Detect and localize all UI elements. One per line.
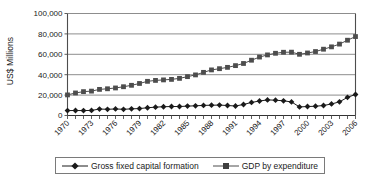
- data-point-marker: [145, 79, 150, 84]
- legend-item-gross-fixed-capital-formation: Gross fixed capital formation: [62, 161, 199, 171]
- data-point-marker: [281, 50, 286, 55]
- series-line-1: [68, 37, 356, 95]
- data-point-marker: [233, 103, 239, 109]
- x-tick-label: 1979: [124, 118, 143, 137]
- data-point-marker: [161, 78, 166, 83]
- data-point-marker: [137, 81, 142, 86]
- data-point-marker: [241, 102, 247, 108]
- data-point-marker: [273, 51, 278, 56]
- x-tick-label: 1976: [100, 118, 119, 137]
- x-tick-label: 1991: [220, 118, 239, 137]
- data-point-marker: [105, 86, 110, 91]
- data-point-marker: [89, 89, 94, 94]
- x-tick-label: 2003: [316, 118, 335, 137]
- data-point-marker: [313, 103, 319, 109]
- data-point-marker: [321, 103, 327, 109]
- data-point-marker: [169, 77, 174, 82]
- data-point-marker: [257, 55, 262, 60]
- data-point-marker: [329, 44, 334, 49]
- data-point-marker: [169, 104, 175, 110]
- data-point-marker: [185, 103, 191, 109]
- x-tick-label: 1997: [268, 118, 287, 137]
- x-tick-label: 1973: [76, 118, 95, 137]
- x-tick-label: 1970: [52, 118, 71, 137]
- data-point-marker: [185, 74, 190, 79]
- data-point-marker: [313, 49, 318, 54]
- data-point-marker: [137, 106, 143, 112]
- data-point-marker: [233, 63, 238, 68]
- plot-area: 020,00040,00060,00080,000100,00019701973…: [0, 0, 373, 181]
- data-point-marker: [81, 108, 87, 114]
- data-point-marker: [217, 66, 222, 71]
- data-point-marker: [329, 101, 335, 107]
- data-point-marker: [81, 89, 86, 94]
- data-point-marker: [217, 102, 223, 108]
- data-point-marker: [161, 104, 167, 110]
- data-point-marker: [201, 103, 207, 109]
- data-point-marker: [337, 99, 343, 105]
- legend-label-0: Gross fixed capital formation: [91, 161, 199, 171]
- data-point-marker: [281, 98, 287, 104]
- data-point-marker: [289, 50, 294, 55]
- x-tick-label: 1982: [148, 118, 167, 137]
- legend-label-1: GDP by expenditure: [242, 161, 318, 171]
- y-tick-label: 20,000: [38, 91, 63, 100]
- data-point-marker: [257, 98, 263, 104]
- x-tick-label: 1985: [172, 118, 191, 137]
- y-tick-label: 80,000: [38, 30, 63, 39]
- data-point-marker: [105, 106, 111, 112]
- y-tick-label: 100,000: [34, 9, 63, 18]
- data-point-marker: [129, 83, 134, 88]
- data-point-marker: [65, 108, 71, 114]
- data-point-marker: [145, 105, 151, 111]
- x-tick-label: 1988: [196, 118, 215, 137]
- data-point-marker: [177, 76, 182, 81]
- x-tick-label: 1994: [244, 118, 263, 137]
- data-point-marker: [97, 87, 102, 92]
- data-point-marker: [153, 104, 159, 110]
- data-point-marker: [113, 106, 119, 112]
- data-point-marker: [337, 42, 342, 47]
- x-tick-label: 2000: [292, 118, 311, 137]
- data-point-marker: [193, 103, 199, 109]
- y-tick-label: 0: [58, 111, 63, 120]
- data-point-marker: [89, 108, 95, 114]
- data-point-marker: [345, 38, 350, 43]
- data-point-marker: [225, 65, 230, 70]
- data-point-marker: [193, 73, 198, 78]
- data-point-marker: [225, 103, 231, 109]
- data-point-marker: [73, 108, 79, 114]
- data-point-marker: [353, 34, 358, 39]
- y-tick-label: 60,000: [38, 50, 63, 59]
- diamond-marker-icon: [62, 161, 88, 171]
- data-point-marker: [353, 92, 359, 98]
- data-point-marker: [321, 47, 326, 52]
- data-point-marker: [209, 68, 214, 73]
- x-tick-label: 2006: [340, 118, 359, 137]
- data-point-marker: [273, 97, 279, 103]
- data-point-marker: [153, 78, 158, 83]
- data-point-marker: [297, 104, 303, 110]
- legend-item-gdp-by-expenditure: GDP by expenditure: [213, 161, 318, 171]
- data-point-marker: [121, 84, 126, 89]
- data-point-marker: [305, 104, 311, 110]
- data-point-marker: [73, 91, 78, 96]
- data-point-marker: [209, 102, 215, 108]
- data-point-marker: [297, 52, 302, 57]
- data-point-marker: [97, 106, 103, 112]
- data-point-marker: [305, 51, 310, 56]
- chart-container: US$ Millions 020,00040,00060,00080,00010…: [0, 0, 373, 181]
- data-point-marker: [121, 106, 127, 112]
- chart-legend: Gross fixed capital formation GDP by exp…: [55, 157, 325, 174]
- data-point-marker: [289, 99, 295, 105]
- data-point-marker: [129, 106, 135, 112]
- data-point-marker: [249, 58, 254, 63]
- data-point-marker: [65, 92, 70, 97]
- data-point-marker: [201, 70, 206, 75]
- y-tick-label: 40,000: [38, 71, 63, 80]
- data-point-marker: [249, 100, 255, 106]
- data-point-marker: [241, 61, 246, 66]
- data-point-marker: [113, 86, 118, 91]
- square-marker-icon: [213, 161, 239, 171]
- data-point-marker: [265, 97, 271, 103]
